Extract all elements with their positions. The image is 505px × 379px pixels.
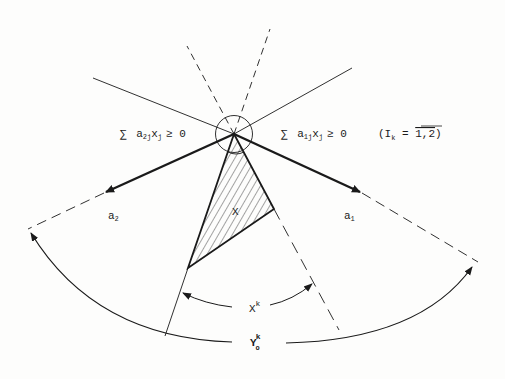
index-set-label: (Ik = 1,2) bbox=[378, 128, 442, 142]
region-x-label: X bbox=[232, 206, 239, 218]
constraint-right-label: ∑ a1jxj≥ 0 bbox=[281, 128, 347, 141]
inner-arc-right bbox=[270, 284, 312, 305]
inner-arc-label: Xk bbox=[249, 299, 261, 315]
constraint-left-label: ∑ a2jxj≥ 0 bbox=[120, 128, 186, 141]
dashed-line-upper-left bbox=[187, 46, 234, 134]
dashed-extension-a2 bbox=[28, 193, 104, 229]
cone-boundary-right bbox=[274, 209, 339, 330]
hyperplane-line-left bbox=[93, 78, 234, 134]
vector-a2-label: a2 bbox=[108, 210, 119, 223]
outer-arc-right bbox=[286, 267, 472, 343]
dashed-line-upper-right bbox=[234, 29, 270, 134]
vector-a2-arrow bbox=[106, 134, 234, 192]
hyperplane-line-right bbox=[234, 68, 352, 134]
cone-diagram: ∑ a2jxj≥ 0 ∑ a1jxj≥ 0 (Ik = 1,2) a2 a1 X… bbox=[0, 0, 505, 379]
vector-a1-label: a1 bbox=[344, 210, 355, 223]
dashed-extension-a1 bbox=[362, 193, 478, 262]
cone-boundary-left bbox=[165, 268, 188, 336]
inner-arc-left bbox=[183, 293, 232, 307]
outer-arc-label: Yok bbox=[250, 332, 261, 352]
feasible-region-x bbox=[188, 134, 274, 268]
